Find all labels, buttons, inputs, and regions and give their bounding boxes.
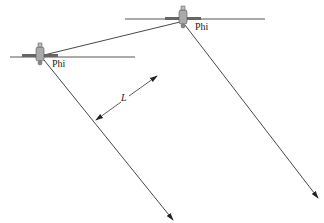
right-satellite-label: Phi — [195, 21, 208, 32]
inter-satellite-link — [44, 22, 180, 55]
dimension-line-upper — [129, 76, 157, 96]
left-beam-arrow — [44, 60, 173, 220]
diagram-canvas: Phi Phi L — [0, 0, 324, 223]
dimension-line-lower — [96, 102, 121, 120]
diagram-svg — [0, 0, 324, 223]
right-beam-arrow — [185, 25, 318, 198]
dimension-label: L — [121, 92, 127, 103]
left-satellite-label: Phi — [52, 58, 65, 69]
